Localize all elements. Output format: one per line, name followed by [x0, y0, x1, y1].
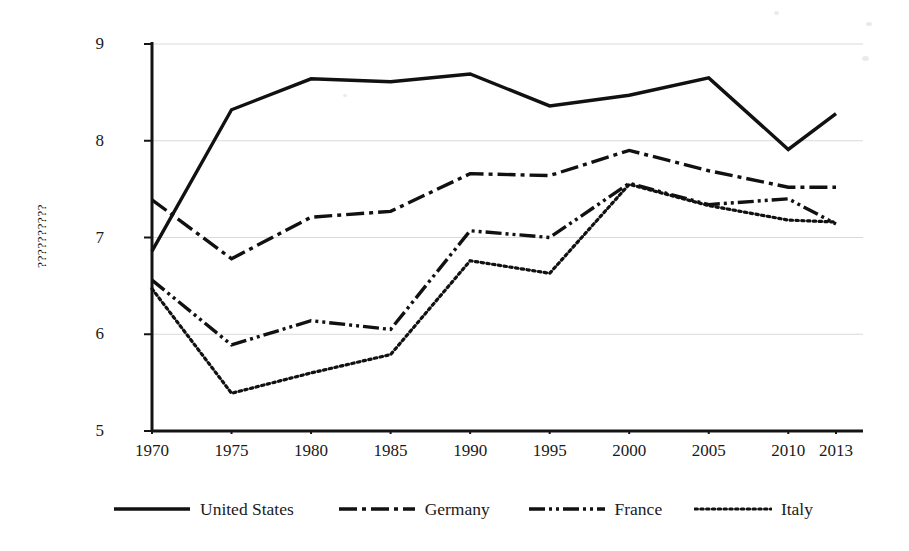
- legend-label: Germany: [425, 499, 490, 519]
- x-axis-tick-labels: 1970197519801985199019952000200520102013: [0, 0, 909, 551]
- x-axis-tick-label: 1970: [117, 441, 187, 461]
- line-chart-figure: ?????????? 56789 19701975198019851990199…: [0, 0, 909, 551]
- x-axis-tick-label: 1990: [435, 441, 505, 461]
- legend-line-swatch: [694, 502, 772, 516]
- legend-label: France: [615, 499, 663, 519]
- chart-legend: United StatesGermanyFranceItaly: [113, 492, 813, 526]
- legend-item-italy[interactable]: Italy: [694, 499, 813, 519]
- legend-line-swatch: [113, 502, 191, 516]
- legend-item-france[interactable]: France: [528, 499, 663, 519]
- x-axis-tick-label: 1980: [276, 441, 346, 461]
- legend-line-swatch: [528, 502, 606, 516]
- x-axis-tick-label: 2013: [801, 441, 871, 461]
- x-axis-tick-label: 1995: [515, 441, 585, 461]
- x-axis-tick-label: 2005: [674, 441, 744, 461]
- legend-item-germany[interactable]: Germany: [338, 499, 490, 519]
- legend-label: United States: [200, 499, 294, 519]
- x-axis-tick-label: 1985: [356, 441, 426, 461]
- legend-label: Italy: [781, 499, 813, 519]
- legend-item-united-states[interactable]: United States: [113, 499, 294, 519]
- x-axis-tick-label: 1975: [197, 441, 267, 461]
- x-axis-tick-label: 2000: [594, 441, 664, 461]
- legend-line-swatch: [338, 502, 416, 516]
